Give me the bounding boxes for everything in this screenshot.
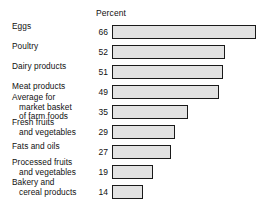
chart-row: Eggs 66 (0, 22, 268, 42)
chart-row: Poultry 52 (0, 42, 268, 62)
bar-track (112, 65, 223, 79)
value-label: 29 (92, 127, 108, 137)
category-label-line: Bakery and (12, 177, 54, 187)
category-label-line: Poultry (12, 41, 38, 51)
bar-track (112, 125, 175, 139)
category-label-line: Meat products (12, 81, 65, 91)
value-label: 66 (92, 27, 108, 37)
bar-track (112, 45, 225, 59)
category-label: Poultry (12, 42, 94, 52)
value-label: 27 (92, 147, 108, 157)
bar (112, 25, 256, 39)
chart-row: Bakery and cereal products 14 (0, 182, 268, 202)
bar (112, 65, 223, 79)
category-label-line: and vegetables (12, 168, 94, 178)
bar (112, 165, 153, 179)
bar (112, 125, 175, 139)
bar-track (112, 145, 171, 159)
category-label-line: Fats and oils (12, 141, 60, 151)
category-label-line: cereal products (12, 188, 94, 198)
value-label: 52 (92, 47, 108, 57)
value-label: 35 (92, 107, 108, 117)
category-label-line: Fresh fruits (12, 117, 54, 127)
category-label: Eggs (12, 22, 94, 32)
category-label-line: Dairy products (12, 61, 66, 71)
bar-track (112, 85, 219, 99)
category-label: Meat products (12, 82, 94, 92)
category-label-line: Average for (12, 92, 55, 102)
category-label: Processed fruits and vegetables (12, 158, 94, 177)
bar (112, 85, 219, 99)
bar (112, 105, 188, 119)
chart-row: Fresh fruits and vegetables 29 (0, 122, 268, 142)
category-label: Fats and oils (12, 142, 94, 152)
category-label-line: Eggs (12, 21, 31, 31)
value-label: 19 (92, 167, 108, 177)
category-label: Dairy products (12, 62, 94, 72)
category-label-line: and vegetables (12, 128, 94, 138)
chart-row: Dairy products 51 (0, 62, 268, 82)
bar-track (112, 165, 153, 179)
bar-track (112, 25, 256, 39)
bar (112, 185, 143, 199)
category-label: Bakery and cereal products (12, 178, 94, 197)
bar (112, 145, 171, 159)
value-label: 51 (92, 67, 108, 77)
category-label-line: Processed fruits (12, 157, 72, 167)
value-label: 49 (92, 87, 108, 97)
axis-header-percent: Percent (96, 8, 126, 18)
value-label: 14 (92, 187, 108, 197)
bar (112, 45, 225, 59)
category-label: Fresh fruits and vegetables (12, 118, 94, 137)
chart-rows: Eggs 66 Poultry 52 Dairy products 51 (0, 22, 268, 202)
bar-track (112, 105, 188, 119)
bar-track (112, 185, 143, 199)
bar-chart: Percent Eggs 66 Poultry 52 Dairy product… (0, 0, 268, 224)
